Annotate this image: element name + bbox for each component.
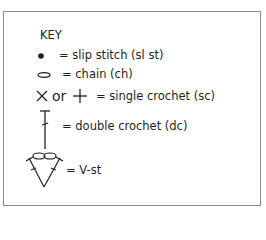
v-stitch-label: = V-st: [66, 165, 101, 177]
double-crochet-label: = double crochet (dc): [62, 121, 187, 133]
single-crochet-label: = single crochet (sc): [96, 91, 215, 103]
slip-stitch-icon: [36, 50, 48, 62]
or-connector: or: [52, 89, 66, 103]
key-title: KEY: [40, 30, 62, 42]
chain-label: = chain (ch): [62, 69, 133, 81]
single-crochet-x-icon: [35, 89, 49, 103]
slip-stitch-label: = slip stitch (sl st): [59, 50, 163, 62]
v-stitch-icon: [24, 150, 66, 192]
chain-icon: [36, 69, 54, 81]
single-crochet-plus-icon: [72, 88, 88, 104]
double-crochet-icon: [38, 108, 52, 150]
